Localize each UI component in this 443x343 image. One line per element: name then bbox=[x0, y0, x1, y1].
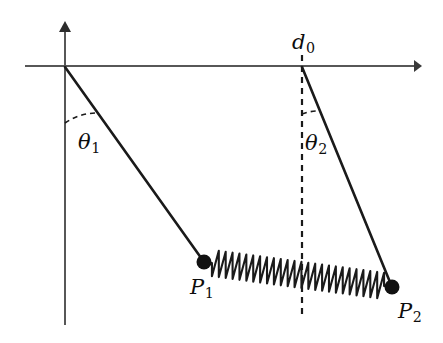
bob-p2 bbox=[385, 280, 400, 295]
horizontal-axis bbox=[25, 60, 422, 72]
label-theta2-sub: 2 bbox=[318, 141, 327, 157]
label-p1-base: P bbox=[190, 275, 204, 299]
label-p1: P1 bbox=[190, 277, 214, 301]
label-theta1-sub: 1 bbox=[91, 140, 100, 156]
diagram-canvas: θ1 θ2 d0 P1 P2 bbox=[0, 0, 443, 343]
theta1-arc bbox=[65, 113, 97, 123]
rod-2 bbox=[302, 67, 392, 287]
label-theta1: θ1 bbox=[78, 132, 100, 156]
label-d0-sub: 0 bbox=[306, 40, 315, 56]
label-p1-sub: 1 bbox=[205, 285, 214, 301]
pendulum-spring-diagram bbox=[0, 0, 443, 343]
label-d0: d0 bbox=[292, 32, 315, 56]
label-theta2: θ2 bbox=[305, 133, 327, 157]
label-p2-sub: 2 bbox=[413, 309, 422, 325]
label-theta2-base: θ bbox=[305, 131, 318, 155]
bob-p1 bbox=[197, 255, 212, 270]
label-d0-base: d bbox=[292, 30, 305, 54]
coupling-spring bbox=[204, 251, 392, 298]
label-theta1-base: θ bbox=[78, 130, 91, 154]
label-p2-base: P bbox=[398, 299, 412, 323]
label-p2: P2 bbox=[398, 301, 422, 325]
rod-1 bbox=[65, 67, 204, 262]
theta2-arc bbox=[302, 111, 320, 114]
